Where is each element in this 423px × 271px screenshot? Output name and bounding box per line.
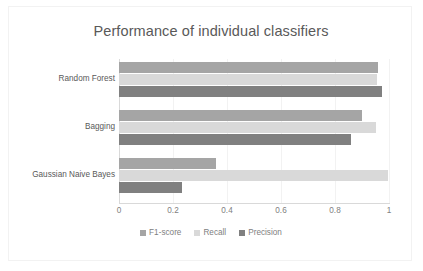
- bar-row: [119, 86, 389, 97]
- bar-recall[interactable]: [119, 74, 377, 85]
- bar-row: [119, 170, 389, 181]
- bar-precision[interactable]: [119, 182, 182, 193]
- legend-swatch-icon: [140, 230, 146, 236]
- chart-legend: F1-scoreRecallPrecision: [9, 228, 413, 237]
- category-label: Random Forest: [59, 74, 115, 83]
- bar-precision[interactable]: [119, 86, 382, 97]
- x-tick-label: 0.2: [167, 206, 178, 215]
- bar-f1-score[interactable]: [119, 158, 216, 169]
- chart-title: Performance of individual classifiers: [9, 23, 413, 39]
- bar-row: [119, 62, 389, 73]
- x-axis-line: [119, 203, 390, 204]
- category-label: Bagging: [85, 122, 115, 131]
- bar-recall[interactable]: [119, 122, 376, 133]
- legend-swatch-icon: [239, 230, 245, 236]
- bar-row: [119, 158, 389, 169]
- bar-row: [119, 110, 389, 121]
- bar-precision[interactable]: [119, 134, 351, 145]
- bar-row: [119, 182, 389, 193]
- plot-area: [119, 59, 389, 203]
- bar-row: [119, 134, 389, 145]
- gridline: [389, 59, 390, 203]
- bar-f1-score[interactable]: [119, 62, 378, 73]
- legend-item-recall[interactable]: Recall: [194, 228, 226, 237]
- bar-row: [119, 74, 389, 85]
- legend-label: Precision: [248, 228, 282, 237]
- bar-f1-score[interactable]: [119, 110, 362, 121]
- legend-item-precision[interactable]: Precision: [239, 228, 282, 237]
- chart-container: Performance of individual classifiers Ra…: [8, 6, 412, 261]
- legend-swatch-icon: [194, 230, 200, 236]
- bar-group: [119, 62, 389, 98]
- x-tick-label: 0.8: [329, 206, 340, 215]
- legend-label: Recall: [203, 228, 226, 237]
- legend-item-f1-score[interactable]: F1-score: [140, 228, 181, 237]
- bar-recall[interactable]: [119, 170, 388, 181]
- x-tick-label: 1: [387, 206, 392, 215]
- legend-label: F1-score: [149, 228, 181, 237]
- x-tick-label: 0: [117, 206, 122, 215]
- bar-group: [119, 158, 389, 194]
- x-tick-label: 0.6: [275, 206, 286, 215]
- category-label: Gaussian Naive Bayes: [32, 170, 115, 179]
- bar-row: [119, 122, 389, 133]
- x-tick-label: 0.4: [221, 206, 232, 215]
- bar-group: [119, 110, 389, 146]
